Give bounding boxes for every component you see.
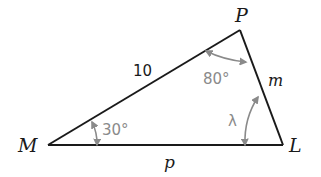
- side-label-ML: p: [164, 152, 175, 172]
- angle-label-M: 30°: [102, 121, 129, 139]
- triangle-edges: [48, 30, 283, 145]
- vertex-label-M: M: [17, 134, 38, 156]
- angle-label-P: 80°: [203, 70, 230, 88]
- angle-arc-P: [206, 51, 246, 62]
- side-label-MP: 10: [133, 62, 152, 80]
- vertex-label-L: L: [288, 134, 302, 156]
- triangle-diagram: P M L 10 m p 30° 80° λ: [0, 0, 321, 177]
- angle-arc-M: [92, 122, 97, 145]
- vertex-label-P: P: [234, 4, 249, 26]
- side-label-PL: m: [268, 71, 283, 90]
- angle-label-L: λ: [228, 112, 237, 130]
- angle-arc-L: [245, 97, 258, 145]
